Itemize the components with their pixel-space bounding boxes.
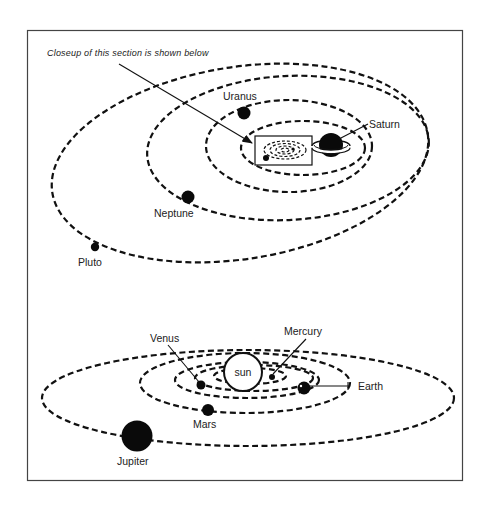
closeup-box xyxy=(255,136,312,165)
closeup-planet xyxy=(291,147,294,150)
closeup-jupiter xyxy=(263,155,269,161)
mars-label: Mars xyxy=(193,418,216,430)
closeup-caption: Closeup of this section is shown below xyxy=(47,48,209,58)
uranus-label: Uranus xyxy=(223,90,257,102)
planet-mercury xyxy=(269,374,275,380)
earth-label: Earth xyxy=(358,380,383,392)
saturn-leader-line xyxy=(339,124,368,139)
orbit-pluto xyxy=(37,38,442,287)
outer-system: Saturn Uranus Neptune Pluto Closeup of t… xyxy=(37,38,442,287)
venus-label: Venus xyxy=(150,332,179,344)
planet-mars xyxy=(202,404,214,416)
venus-leader-line xyxy=(168,345,199,382)
mercury-label: Mercury xyxy=(284,325,323,337)
inner-system: sun Mercury Venus Earth Mars Jupiter xyxy=(42,325,454,467)
planet-venus xyxy=(197,381,206,390)
saturn-label: Saturn xyxy=(369,118,400,130)
pluto-label: Pluto xyxy=(78,256,102,268)
closeup-frame xyxy=(255,136,312,165)
planet-earth xyxy=(298,382,311,395)
planet-pluto xyxy=(91,243,99,251)
earth-highlight xyxy=(300,385,302,387)
planet-uranus xyxy=(238,107,251,120)
solar-system-diagram: Saturn Uranus Neptune Pluto Closeup of t… xyxy=(0,0,491,507)
planet-jupiter xyxy=(122,421,153,452)
sun-label: sun xyxy=(235,366,252,378)
neptune-label: Neptune xyxy=(154,207,194,219)
jupiter-label: Jupiter xyxy=(117,455,149,467)
planet-neptune xyxy=(182,191,195,204)
